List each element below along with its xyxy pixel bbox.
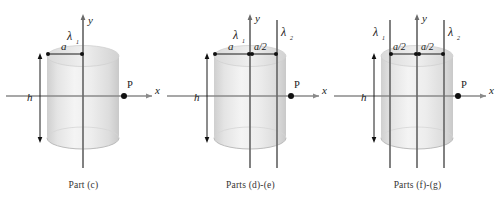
point-p-label: P bbox=[127, 79, 133, 90]
lambda-1-subscript: 1 bbox=[382, 35, 385, 41]
dimension-height bbox=[372, 53, 377, 143]
lambda-2-symbol: λ bbox=[280, 25, 286, 39]
charge-line-lambda-1-label: λ 1 bbox=[66, 29, 79, 45]
lambda-1-subscript: 1 bbox=[76, 39, 79, 45]
charge-line-lambda-1-label: λ 1 bbox=[372, 25, 385, 41]
axis-y-label: y bbox=[254, 12, 260, 24]
lambda-2-subscript: 2 bbox=[457, 35, 460, 41]
point-p-label: P bbox=[461, 79, 467, 90]
point-p bbox=[455, 93, 461, 99]
axis-x-label: x bbox=[154, 84, 160, 96]
axis-x-label: x bbox=[488, 84, 494, 96]
lambda-1-subscript: 1 bbox=[242, 38, 245, 44]
dimension-height bbox=[205, 53, 210, 143]
panel-parts-d-e-diagram: y x λ 1 λ 2 a a/2 h P bbox=[167, 0, 334, 204]
height-label-h: h bbox=[194, 91, 200, 103]
panel-parts-d-e: y x λ 1 λ 2 a a/2 h P Parts (d)-(e) bbox=[167, 0, 334, 204]
figure-root: y x λ 1 a h P Part (c) bbox=[0, 0, 501, 204]
charge-line-lambda-2-label: λ 2 bbox=[280, 25, 293, 41]
panel-parts-f-g-diagram: y x λ 1 λ 2 a/2 a/2 h P bbox=[334, 0, 501, 204]
caption-parts-d-e: Parts (d)-(e) bbox=[167, 180, 334, 190]
point-p bbox=[288, 93, 294, 99]
axis-x-label: x bbox=[321, 84, 327, 96]
panel-part-c-diagram: y x λ 1 a h P bbox=[0, 0, 167, 204]
panel-part-c: y x λ 1 a h P Part (c) bbox=[0, 0, 167, 204]
height-label-h: h bbox=[27, 91, 33, 103]
point-p bbox=[121, 93, 127, 99]
lambda-2-subscript: 2 bbox=[290, 35, 293, 41]
lambda-2-symbol: λ bbox=[447, 25, 453, 39]
panel-parts-f-g: y x λ 1 λ 2 a/2 a/2 h P Parts (f)-(g) bbox=[334, 0, 501, 204]
lambda-1-symbol: λ bbox=[372, 25, 378, 39]
offset-label-a-over-2: a/2 bbox=[254, 41, 267, 52]
caption-parts-f-g: Parts (f)-(g) bbox=[334, 180, 501, 190]
offset-left-label-a-over-2: a/2 bbox=[393, 41, 406, 52]
offset-right-label-a-over-2: a/2 bbox=[421, 41, 434, 52]
axis-y-label: y bbox=[87, 14, 93, 26]
height-label-h: h bbox=[361, 91, 367, 103]
radius-label-a: a bbox=[61, 40, 67, 52]
dimension-height bbox=[38, 53, 43, 143]
caption-part-c: Part (c) bbox=[0, 180, 167, 190]
point-p-label: P bbox=[294, 79, 300, 90]
charge-line-lambda-1-label: λ 1 bbox=[232, 28, 245, 44]
radius-label-a: a bbox=[228, 40, 234, 52]
charge-line-lambda-2-label: λ 2 bbox=[447, 25, 460, 41]
axis-y-label: y bbox=[421, 12, 427, 24]
lambda-1-symbol: λ bbox=[66, 29, 72, 43]
